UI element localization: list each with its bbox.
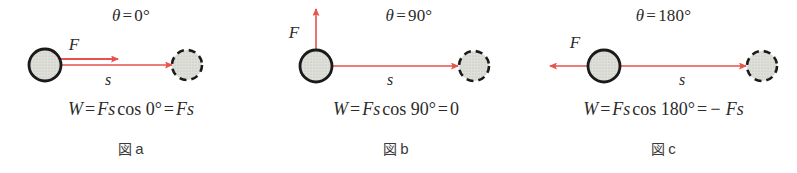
equals-sign-c: =	[644, 6, 658, 25]
formula-c: W=Fscos 180°=− Fs	[530, 99, 797, 120]
caption-kanji-a: 図	[118, 141, 132, 157]
scene-a: F s	[0, 28, 262, 90]
result-b: 0	[450, 99, 459, 119]
result-a: Fs	[176, 99, 194, 119]
caption-letter-c: c	[668, 140, 676, 157]
formula-equals2-c: =	[695, 99, 709, 119]
ball-final-b	[459, 51, 489, 81]
angle-label-c: θ=180°	[530, 6, 797, 26]
cos-b: cos	[380, 99, 406, 119]
force-label-a: F	[68, 35, 80, 54]
formula-b: W=Fscos 90°=0	[262, 99, 530, 120]
work-angle-figure: θ=0°	[0, 0, 797, 173]
scene-svg-b: F s	[262, 28, 530, 90]
formula-equals1-c: =	[598, 99, 612, 119]
cos-a: cos	[115, 99, 141, 119]
caption-letter-b: b	[400, 140, 408, 157]
angle-value-c: 180°	[658, 6, 691, 25]
cos-angle-a: 0°	[146, 99, 162, 119]
displacement-label-b: s	[387, 71, 393, 88]
caption-c: 図c	[530, 138, 797, 158]
formula-equals1-a: =	[83, 99, 97, 119]
angle-value-a: 0°	[134, 6, 150, 25]
formula-equals1-b: =	[348, 99, 362, 119]
angle-label-b: θ=90°	[288, 6, 530, 26]
caption-a: 図a	[0, 138, 262, 158]
result-c: − Fs	[709, 99, 744, 119]
ball-initial-b	[300, 50, 332, 82]
work-symbol-b: W	[333, 99, 348, 119]
caption-b: 図b	[262, 138, 530, 158]
force-label-b: F	[288, 23, 300, 42]
theta-symbol-a: θ	[112, 6, 121, 25]
ball-final-a	[172, 50, 202, 80]
work-symbol-a: W	[68, 99, 83, 119]
force-symbol-c: F	[612, 99, 623, 119]
angle-label-a: θ=0°	[0, 6, 262, 26]
caption-kanji-b: 図	[383, 141, 397, 157]
caption-letter-a: a	[135, 140, 143, 157]
panel-figure-b: θ=90°	[262, 0, 530, 173]
scene-c: F s	[530, 28, 797, 90]
equals-sign-a: =	[121, 6, 135, 25]
cos-c: cos	[630, 99, 656, 119]
theta-symbol-b: θ	[386, 6, 395, 25]
cos-angle-b: 90°	[411, 99, 436, 119]
panel-figure-c: θ=180°	[530, 0, 797, 173]
angle-value-b: 90°	[408, 6, 432, 25]
ball-initial-a	[29, 49, 61, 81]
scene-b: F s	[262, 28, 530, 90]
caption-kanji-c: 図	[651, 141, 665, 157]
ball-initial-c	[588, 50, 620, 82]
force-symbol-a: F	[97, 99, 108, 119]
force-label-c: F	[569, 33, 581, 52]
cos-angle-c: 180°	[661, 99, 695, 119]
formula-a: W=Fscos 0°=Fs	[0, 99, 262, 120]
scene-svg-c: F s	[530, 28, 797, 90]
ball-final-c	[747, 51, 777, 81]
displacement-label-a: s	[105, 71, 111, 88]
scene-svg-a: F s	[0, 28, 262, 90]
panel-figure-a: θ=0°	[0, 0, 262, 173]
work-symbol-c: W	[583, 99, 598, 119]
displacement-label-c: s	[679, 71, 685, 88]
force-symbol-b: F	[362, 99, 373, 119]
equals-sign-b: =	[394, 6, 408, 25]
formula-equals2-b: =	[436, 99, 450, 119]
formula-equals2-a: =	[162, 99, 176, 119]
